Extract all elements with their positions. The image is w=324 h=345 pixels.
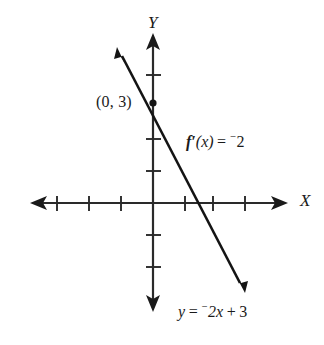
y-intercept-point-marker: [149, 99, 156, 106]
equation-equals-sign: =: [189, 303, 198, 320]
derivative-argument: (x): [196, 133, 214, 150]
equation-negative-sign: ⁻: [201, 303, 208, 315]
line-start-arrowhead: [114, 47, 125, 64]
equation-lhs: y: [178, 303, 185, 320]
y-axis-label: Y: [148, 14, 157, 31]
derivative-equals-sign: =: [217, 133, 226, 150]
equation-intercept: 3: [239, 303, 247, 320]
graph-figure: Y X (0, 3) f′(x)=⁻2 y=⁻2x+3: [0, 0, 324, 345]
derivative-annotation: f′(x)=⁻2: [186, 133, 244, 150]
point-label: (0, 3): [96, 94, 132, 110]
derivative-value: 2: [236, 133, 244, 150]
coordinate-plane-svg: [0, 0, 324, 345]
line-end-arrowhead: [236, 276, 248, 293]
plotted-line: [122, 56, 240, 283]
x-axis-label: X: [300, 192, 310, 209]
equation-slope-term: 2x: [208, 303, 223, 320]
equation-plus-sign: +: [227, 303, 236, 320]
equation-annotation: y=⁻2x+3: [178, 303, 247, 320]
